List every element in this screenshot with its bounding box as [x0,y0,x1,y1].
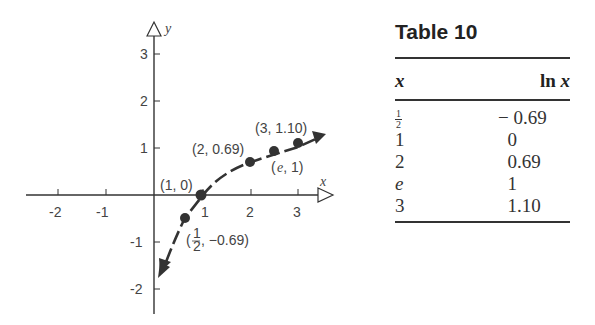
x-tick-label: -2 [49,204,62,220]
x-tick-label: 2 [246,204,254,220]
cell-x: 2 [395,151,405,173]
table-header: x ln x [395,59,570,99]
table-title: Table 10 [395,20,570,48]
header-lnx: ln x [540,70,570,92]
cell-x: 1 [395,129,405,151]
cell-lnx: 0 [498,129,570,151]
curve-arrow-right-icon [312,131,326,144]
x-axis-arrow-icon [318,188,333,202]
point-label: (2, 0.69) [192,141,244,157]
cell-x: e [395,173,403,195]
table-row: 1 0 [395,129,570,151]
table-10: Table 10 x ln x 12 − 0.69 1 0 2 0.69 e 1… [395,20,570,223]
x-tick-label: -1 [96,204,109,220]
point-label: (1, 0) [160,177,193,193]
x-tick-label: 1 [201,204,209,220]
y-tick-label: -2 [130,281,143,297]
cell-lnx: 1 [498,173,570,195]
header-x: x [395,70,405,92]
point-1-0 [196,190,207,201]
y-tick-label: 3 [140,46,148,62]
svg-text:2: 2 [193,238,201,254]
svg-text:(: ( [186,232,191,248]
y-tick-label: 1 [140,140,148,156]
y-axis-label: y [163,21,172,36]
point-label-e: e, 1)( [271,159,303,175]
cell-lnx: − 0.69 [498,107,570,129]
x-tick-label: 3 [293,204,301,220]
x-axis-label: x [319,174,327,189]
point-label: (3, 1.10) [255,120,307,136]
point-3 [293,138,303,148]
y-tick-label: -1 [130,234,143,250]
point-half [180,213,190,223]
svg-text:, −0.69): , −0.69) [201,232,249,248]
table-row: 2 0.69 [395,151,570,173]
cell-x: 12 [395,107,402,129]
point-label-half: ( 1 2 , −0.69) [186,225,249,254]
table-row: e 1 [395,173,570,195]
cell-lnx: 0.69 [498,151,570,173]
table-row: 3 1.10 [395,195,570,217]
table-bottom-rule [395,221,570,223]
cell-lnx: 1.10 [498,195,570,217]
cell-x: 3 [395,195,405,217]
point-2 [245,157,255,167]
table-row: 12 − 0.69 [395,107,570,129]
ln-graph: x -2 -1 1 2 3 y 3 2 1 -1 -2 [0,0,350,325]
table-body: 12 − 0.69 1 0 2 0.69 e 1 3 1.10 [395,101,570,221]
y-axis-arrow-icon [147,22,161,36]
y-tick-label: 2 [140,93,148,109]
point-e [269,146,279,156]
